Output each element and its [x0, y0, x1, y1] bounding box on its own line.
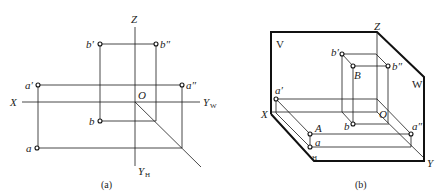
- caption-b: (b): [355, 179, 367, 191]
- point-b-prime: [98, 42, 102, 46]
- label-a-prime: a′: [25, 79, 34, 91]
- label-z: Z: [131, 13, 138, 25]
- label-a-double-prime: a″: [186, 79, 197, 91]
- label-b-prime: b′: [86, 38, 95, 50]
- label-yh-sub: H: [145, 171, 150, 179]
- point-b: [98, 119, 102, 123]
- 45-degree-line: [135, 102, 201, 167]
- label-a-prime-3d: a′: [275, 84, 284, 96]
- point-a-double-prime: [180, 83, 184, 87]
- label-B-3d: B: [354, 69, 361, 81]
- point-B-3d: [351, 64, 355, 68]
- label-origin: O: [138, 89, 146, 101]
- label-b-double-prime: b″: [160, 38, 171, 50]
- label-a: a: [26, 142, 32, 154]
- point-A-3d: [308, 132, 312, 136]
- label-plane-h: H: [312, 154, 317, 162]
- label-yw-sub: W: [210, 102, 217, 110]
- label-a-3d: a: [315, 136, 321, 148]
- point-a: [35, 146, 39, 150]
- label-A-3d: A: [314, 122, 322, 134]
- label-b: b: [89, 115, 95, 127]
- label-origin-3d: O: [379, 108, 387, 120]
- planes-outline: [271, 32, 424, 161]
- figure-a: Z X O Y W Y H b′ b″ a′ a″ b a (a): [9, 13, 217, 191]
- projection-diagram: Z X O Y W Y H b′ b″ a′ a″ b a (a): [0, 0, 441, 195]
- label-plane-v: V: [276, 38, 284, 50]
- label-plane-w: W: [412, 78, 423, 90]
- caption-a: (a): [101, 179, 112, 191]
- x-to-a: [276, 113, 310, 147]
- point-b-double-prime-3d: [386, 64, 390, 68]
- point-b-3d: [351, 122, 355, 126]
- point-a-double-prime-3d: [409, 132, 413, 136]
- point-a-prime-3d: [274, 97, 278, 101]
- figure-b: V W H Z X Y O b′ B b″ b a′ A a a″ (b): [260, 20, 435, 191]
- label-x-3d: X: [260, 108, 269, 120]
- point-b-prime-3d: [340, 52, 344, 56]
- label-b-double-prime-3d: b″: [392, 60, 403, 72]
- point-b-double-prime: [154, 42, 158, 46]
- a-prime-to-A: [276, 99, 310, 134]
- label-y-3d: Y: [427, 157, 435, 169]
- point-a-3d: [308, 145, 312, 149]
- label-a-double-prime-3d: a″: [412, 120, 423, 132]
- label-b-3d: b: [344, 120, 350, 132]
- point-a-prime: [36, 83, 40, 87]
- label-z-3d: Z: [374, 20, 381, 32]
- label-x: X: [9, 96, 18, 108]
- label-b-prime-3d: b′: [331, 46, 340, 58]
